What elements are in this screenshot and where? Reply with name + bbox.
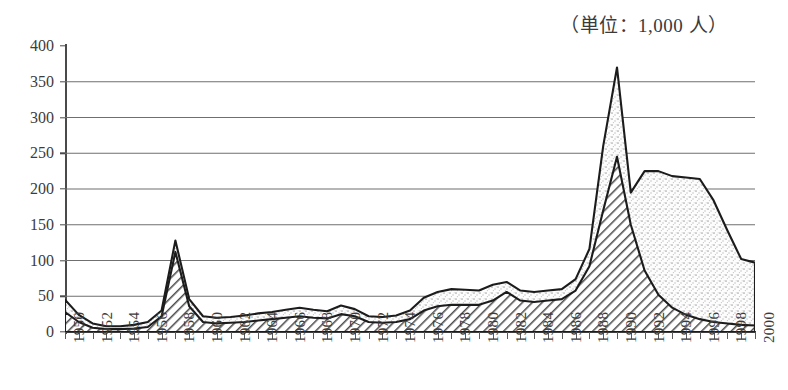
x-tick-mark <box>148 332 149 339</box>
x-tick-label: 1982 <box>513 312 530 343</box>
x-tick-label: 1974 <box>402 312 419 343</box>
x-tick-mark <box>286 332 287 339</box>
x-tick-mark <box>727 332 728 339</box>
x-tick-mark <box>258 332 259 339</box>
x-tick-label: 1984 <box>540 312 557 343</box>
x-tick-label: 1998 <box>733 312 750 343</box>
x-tick-mark <box>120 332 121 339</box>
x-tick-label: 1970 <box>347 312 364 343</box>
x-tick-mark <box>700 332 701 339</box>
x-tick-mark <box>755 332 756 339</box>
x-tick-label: 1986 <box>568 312 585 343</box>
x-tick-label: 1988 <box>595 312 612 343</box>
x-tick-label: 1962 <box>237 312 254 343</box>
x-tick-mark <box>341 332 342 339</box>
x-tick-label: 1996 <box>706 312 723 343</box>
x-tick-mark <box>65 332 66 339</box>
x-axis-ticks: 1950195219541956195819601962196419661968… <box>0 0 788 390</box>
x-tick-mark <box>175 332 176 339</box>
x-tick-mark <box>231 332 232 339</box>
x-tick-mark <box>617 332 618 339</box>
chart-root: （単位：1,000 人） 050100150200250300350400 <box>0 0 788 390</box>
x-tick-mark <box>93 332 94 339</box>
x-tick-label: 1994 <box>678 312 695 343</box>
x-tick-label: 1990 <box>623 312 640 343</box>
x-tick-label: 1980 <box>485 312 502 343</box>
x-tick-label: 1992 <box>651 312 668 343</box>
x-tick-label: 1960 <box>209 312 226 343</box>
x-tick-mark <box>645 332 646 339</box>
x-tick-mark <box>451 332 452 339</box>
x-tick-label: 2000 <box>761 312 778 343</box>
x-tick-label: 1976 <box>430 312 447 343</box>
x-tick-mark <box>589 332 590 339</box>
x-tick-label: 1950 <box>71 312 88 343</box>
x-tick-label: 1958 <box>181 312 198 343</box>
x-tick-mark <box>479 332 480 339</box>
x-tick-mark <box>507 332 508 339</box>
x-tick-label: 1956 <box>154 312 171 343</box>
x-tick-mark <box>534 332 535 339</box>
x-tick-label: 1954 <box>126 312 143 343</box>
x-tick-mark <box>203 332 204 339</box>
x-tick-label: 1978 <box>457 312 474 343</box>
x-tick-label: 1952 <box>99 312 116 343</box>
x-tick-label: 1966 <box>292 312 309 343</box>
x-tick-label: 1972 <box>375 312 392 343</box>
x-tick-mark <box>369 332 370 339</box>
x-tick-label: 1968 <box>319 312 336 343</box>
x-tick-mark <box>424 332 425 339</box>
x-tick-label: 1964 <box>264 312 281 343</box>
x-tick-mark <box>313 332 314 339</box>
x-tick-mark <box>562 332 563 339</box>
x-tick-mark <box>672 332 673 339</box>
x-tick-mark <box>396 332 397 339</box>
